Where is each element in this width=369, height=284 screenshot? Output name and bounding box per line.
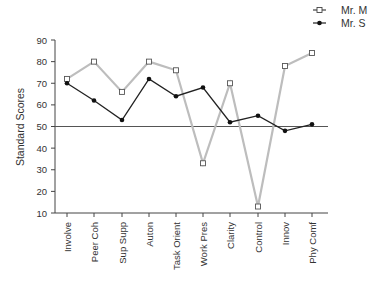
legend-label: Mr. S [341, 17, 366, 29]
x-tick-label: Task Orient [171, 222, 182, 270]
data-point-square [147, 59, 152, 64]
data-point-circle [92, 98, 97, 103]
x-tick-label: Auton [144, 222, 155, 247]
x-tick-label: Innov [280, 222, 291, 245]
y-tick-label: 10 [36, 208, 47, 219]
series-mr-m [65, 50, 315, 209]
data-point-square [92, 59, 97, 64]
data-point-circle [256, 113, 261, 118]
data-point-circle [65, 81, 70, 86]
x-tick-label: Involve [62, 222, 73, 252]
data-point-circle [147, 77, 152, 82]
x-tick-label: Work Pres [198, 222, 209, 266]
x-tick-label: Phy Comf [307, 222, 318, 264]
data-point-square [120, 89, 125, 94]
data-point-circle [174, 94, 179, 99]
data-point-circle [310, 122, 315, 127]
data-point-circle [201, 85, 206, 90]
data-point-square [256, 204, 261, 209]
y-tick-label: 90 [36, 35, 47, 46]
x-tick-label: Control [253, 222, 264, 253]
square-marker-icon [317, 8, 322, 13]
y-tick-label: 20 [36, 186, 47, 197]
x-tick-label: Clarity [225, 222, 236, 249]
y-tick-label: 40 [36, 143, 47, 154]
y-tick-label: 60 [36, 99, 47, 110]
y-tick-label: 70 [36, 78, 47, 89]
series-group [65, 50, 315, 209]
x-tick-label: Peer Coh [89, 222, 100, 262]
data-point-circle [120, 118, 125, 123]
data-point-square [174, 68, 179, 73]
line-chart: Mr. MMr. S Standard Scores 1020304050607… [0, 0, 369, 284]
y-axis-label: Standard Scores [14, 88, 26, 166]
circle-marker-icon [317, 21, 322, 26]
data-point-circle [283, 129, 288, 134]
data-point-circle [228, 120, 233, 125]
y-tick-label: 30 [36, 164, 47, 175]
data-point-square [310, 50, 315, 55]
data-point-square [228, 81, 233, 86]
series-line [67, 79, 312, 131]
x-tick-label: Sup Supp [117, 222, 128, 264]
data-point-square [65, 76, 70, 81]
x-tick-labels: InvolvePeer CohSup SuppAutonTask OrientW… [62, 222, 318, 270]
data-point-square [201, 161, 206, 166]
legend: Mr. MMr. S [313, 4, 367, 29]
legend-label: Mr. M [341, 4, 367, 16]
series-line [67, 53, 312, 207]
legend-item-mr-m: Mr. M [313, 4, 367, 16]
y-tick-label: 50 [36, 121, 47, 132]
y-tick-label: 80 [36, 56, 47, 67]
data-point-square [283, 63, 288, 68]
legend-item-mr-s: Mr. S [313, 17, 366, 29]
